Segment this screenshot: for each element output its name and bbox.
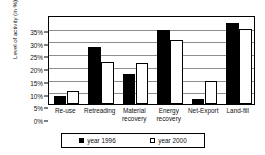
x-axis-label-line: Land-fill <box>221 107 256 115</box>
bar-series-layer <box>49 17 254 104</box>
bar-1996 <box>226 23 239 104</box>
bar-group <box>222 17 257 104</box>
bar-group <box>118 17 153 104</box>
bar-group <box>187 17 222 104</box>
bar-1996 <box>123 74 136 105</box>
bar-2000 <box>205 81 218 104</box>
legend-item: year 2000 <box>150 137 186 144</box>
bar-2000 <box>67 91 80 104</box>
x-axis-label: Materialrecovery <box>117 107 152 123</box>
x-axis-label: Net-Export <box>186 107 221 115</box>
bar-1996 <box>192 99 205 104</box>
x-axis-label-line: Material <box>117 107 152 115</box>
bar-group <box>153 17 188 104</box>
legend-item: year 1996 <box>79 137 115 144</box>
bar-1996 <box>88 47 101 104</box>
bar-chart: Level of activity (in %) 0%5%10%15%20%25… <box>0 0 265 155</box>
bar-2000 <box>239 29 252 104</box>
x-axis-label: Land-fill <box>221 107 256 115</box>
x-axis-label-line: Retreading <box>83 107 118 115</box>
bar-2000 <box>101 62 114 104</box>
bar-2000 <box>136 63 149 104</box>
y-tick-label: 20% <box>30 67 43 74</box>
x-axis-label-line: recovery <box>117 115 152 123</box>
hollow-square-icon <box>150 138 155 143</box>
x-axis-label-line: Net-Export <box>186 107 221 115</box>
legend-label: year 2000 <box>158 137 186 144</box>
y-axis-ticks: 0%5%10%15%20%25%30%35% <box>0 16 48 105</box>
y-tick-label: 30% <box>30 41 43 48</box>
x-axis-label-line: recovery <box>152 115 187 123</box>
x-axis-label: Energyrecovery <box>152 107 187 123</box>
filled-square-icon <box>79 138 84 143</box>
bar-group <box>84 17 119 104</box>
bar-2000 <box>170 40 183 104</box>
x-axis-label: Retreading <box>83 107 118 115</box>
y-tick-label: 15% <box>30 79 43 86</box>
bar-1996 <box>54 96 67 104</box>
y-tick-label: 0% <box>34 118 43 125</box>
chart-legend: year 1996year 2000 <box>61 133 205 148</box>
legend-label: year 1996 <box>87 137 115 144</box>
bar-1996 <box>157 30 170 104</box>
y-tick-label: 25% <box>30 54 43 61</box>
y-tick-label: 5% <box>34 105 43 112</box>
x-axis-labels: Re-useRetreadingMaterialrecoveryEnergyre… <box>48 107 255 129</box>
y-tick-label: 10% <box>30 92 43 99</box>
x-axis-label-line: Re-use <box>48 107 83 115</box>
y-tick-label: 35% <box>30 29 43 36</box>
bar-group <box>49 17 84 104</box>
x-axis-label-line: Energy <box>152 107 187 115</box>
plot-area <box>48 16 255 105</box>
x-axis-label: Re-use <box>48 107 83 115</box>
